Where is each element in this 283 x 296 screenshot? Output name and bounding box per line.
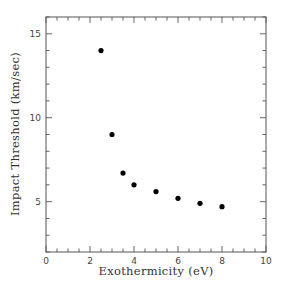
y-tick-label: 10 (30, 113, 42, 123)
axis-ticks (46, 17, 266, 252)
scatter-chart: 0246810 51015 Exothermicity (eV) Impact … (0, 0, 283, 296)
y-tick-label: 15 (30, 29, 41, 39)
x-tick-label: 10 (260, 256, 272, 266)
data-point (131, 182, 136, 187)
x-tick-label: 0 (43, 256, 49, 266)
data-point (120, 171, 125, 176)
plot-border (46, 17, 266, 252)
data-point (98, 48, 103, 53)
data-point (109, 132, 114, 137)
data-point (197, 201, 202, 206)
y-axis-tick-labels: 51015 (30, 29, 42, 207)
data-point (153, 189, 158, 194)
data-point (175, 196, 180, 201)
y-axis-title: Impact Threshold (km/sec) (8, 52, 22, 216)
x-tick-label: 8 (219, 256, 225, 266)
x-axis-title: Exothermicity (eV) (98, 264, 213, 278)
data-point (219, 204, 224, 209)
plot-frame (46, 17, 266, 252)
y-tick-label: 5 (35, 197, 41, 207)
x-tick-label: 2 (87, 256, 93, 266)
data-points (98, 48, 224, 209)
